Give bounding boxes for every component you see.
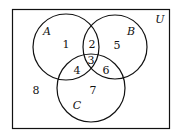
region-6: 6 bbox=[103, 64, 110, 77]
region-8: 8 bbox=[33, 84, 40, 97]
universe-label: U bbox=[155, 13, 165, 26]
region-1: 1 bbox=[63, 38, 70, 51]
region-5: 5 bbox=[114, 39, 121, 52]
set-label-b: B bbox=[126, 25, 135, 38]
venn-diagram: U A B C 1 2 3 4 5 6 7 8 bbox=[0, 0, 178, 134]
region-7: 7 bbox=[90, 84, 97, 97]
region-2: 2 bbox=[89, 38, 96, 51]
region-4: 4 bbox=[74, 64, 81, 77]
set-label-a: A bbox=[42, 25, 51, 38]
region-3: 3 bbox=[88, 54, 95, 67]
set-label-c: C bbox=[73, 99, 82, 112]
